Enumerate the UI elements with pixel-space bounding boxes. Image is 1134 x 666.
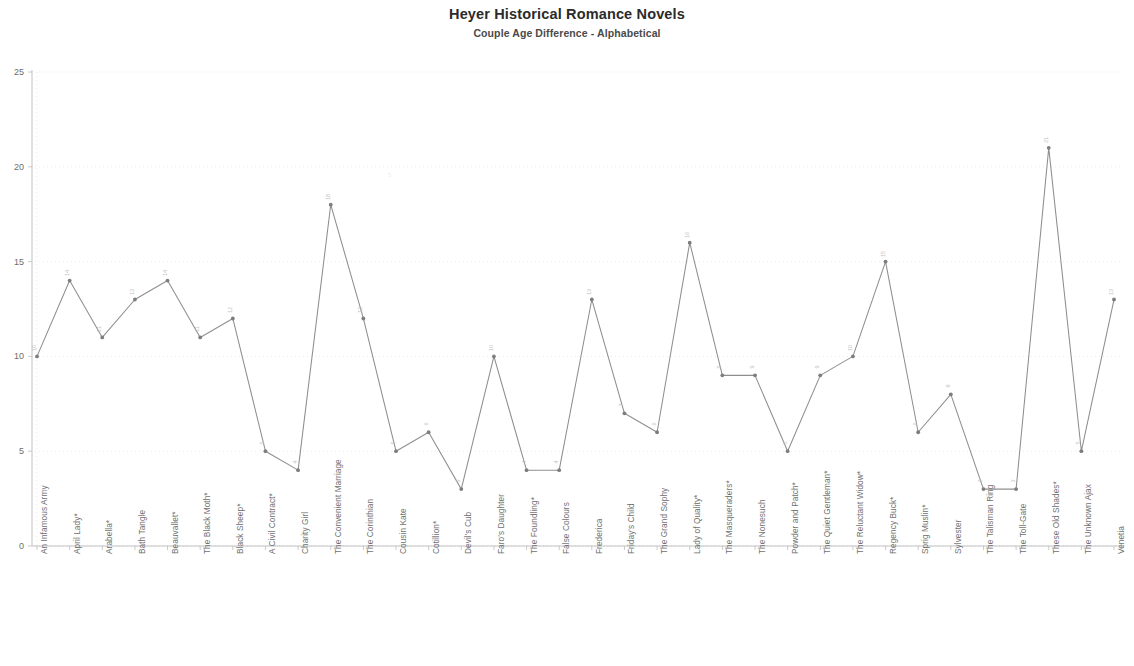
x-tick-label: The Foundling* — [530, 497, 539, 554]
x-tick-label: Arabella* — [105, 520, 114, 554]
data-point — [133, 298, 137, 302]
data-point — [329, 203, 333, 207]
x-tick-label: Powder and Patch* — [791, 482, 800, 554]
y-tick-label: 20 — [2, 162, 24, 172]
data-point — [1112, 298, 1116, 302]
data-point-label: 3 — [1010, 480, 1016, 483]
x-tick-label: Lady of Quality* — [693, 495, 702, 554]
x-tick-label: Faro's Daughter — [497, 494, 506, 554]
chart-root: Heyer Historical Romance Novels Couple A… — [0, 0, 1134, 666]
data-point-label: 9 — [814, 366, 820, 369]
x-tick-label: Black Sheep* — [236, 504, 245, 554]
series-markers — [35, 146, 1116, 491]
data-point — [1047, 146, 1051, 150]
data-point-label: 5 — [390, 442, 396, 445]
data-point — [427, 430, 431, 434]
x-tick-label: Charity Girl — [301, 512, 310, 554]
line-chart-svg — [0, 0, 1134, 666]
data-point-label: 10 — [488, 345, 494, 351]
y-tick-label: 5 — [2, 446, 24, 456]
x-tick-label: These Old Shades* — [1052, 481, 1061, 554]
data-point-label: 21 — [1043, 137, 1049, 143]
data-point-label: 8 — [945, 385, 951, 388]
data-point-label: 5 — [1075, 442, 1081, 445]
data-point-label: 16 — [684, 232, 690, 238]
data-point — [753, 373, 757, 377]
x-tick-label: Sylvester — [954, 519, 963, 554]
axis-lines — [28, 70, 1124, 546]
data-point-label: 3 — [977, 480, 983, 483]
x-tick-label: Cotillion* — [432, 521, 441, 554]
x-tick-label: The Reluctant Widow* — [856, 471, 865, 554]
data-point — [394, 449, 398, 453]
x-tick-label: The Quiet Gentleman* — [823, 470, 832, 554]
data-point-label: 13 — [586, 288, 592, 294]
data-point-label: 11 — [96, 327, 102, 333]
data-point — [720, 373, 724, 377]
x-tick-label: Sprig Muslin* — [921, 504, 930, 554]
data-point-label: 5 — [259, 442, 265, 445]
data-point-label: 4 — [521, 461, 527, 464]
x-tick-label: The Nonesuch — [758, 499, 767, 554]
data-point — [166, 279, 170, 283]
x-tick-label: The Toll-Gate — [1019, 504, 1028, 554]
data-point — [557, 468, 561, 472]
data-point — [818, 373, 822, 377]
data-point-label: 6 — [423, 423, 429, 426]
data-point — [296, 468, 300, 472]
data-point — [459, 487, 463, 491]
data-point — [688, 241, 692, 245]
data-point — [361, 317, 365, 321]
x-tick-label: Frederica — [595, 519, 604, 555]
data-point — [916, 430, 920, 434]
data-point-label: 10 — [31, 345, 37, 351]
data-point-label: 6 — [912, 423, 918, 426]
x-tick-label: Venetia — [1117, 526, 1126, 554]
x-tick-label: Cousin Kate — [399, 508, 408, 554]
x-tick-label: The Convenient Marriage — [334, 459, 343, 554]
y-tick-label: 15 — [2, 257, 24, 267]
data-point — [264, 449, 268, 453]
data-point-label: 7 — [618, 404, 624, 407]
data-point-label: 9 — [749, 366, 755, 369]
x-tick-label: Regency Buck* — [889, 497, 898, 554]
data-point-label: 15 — [880, 250, 886, 256]
data-point-label: 9 — [716, 366, 722, 369]
data-point-label: 4 — [553, 461, 559, 464]
data-point — [68, 279, 72, 283]
data-point-label: 14 — [162, 269, 168, 275]
data-point — [35, 355, 39, 359]
data-point — [949, 392, 953, 396]
data-point — [655, 430, 659, 434]
data-point-label: 10 — [847, 345, 853, 351]
data-point — [851, 355, 855, 359]
data-point-label: 18 — [325, 194, 331, 200]
data-point — [590, 298, 594, 302]
x-tick-label: False Colours — [562, 502, 571, 554]
data-point-label: 5 — [782, 442, 788, 445]
data-point-label: 13 — [129, 288, 135, 294]
data-point-label: 4 — [292, 461, 298, 464]
x-tick-label: An Infamous Army — [40, 485, 49, 554]
x-tick-label: The Masqueraders* — [725, 480, 734, 554]
y-tick-label: 10 — [2, 351, 24, 361]
y-tick-label: 25 — [2, 67, 24, 77]
data-point — [198, 336, 202, 340]
plot-area: 0510152025 An Infamous ArmyApril Lady*Ar… — [0, 0, 1134, 666]
series-line — [37, 148, 1114, 489]
y-tick-label: 0 — [2, 541, 24, 551]
data-point — [231, 317, 235, 321]
data-point-label: 14 — [64, 269, 70, 275]
x-tick-label: Bath Tangle — [138, 510, 147, 554]
x-tick-label: A Civil Contract* — [268, 493, 277, 554]
x-tick-label: The Unknown Ajax — [1084, 484, 1093, 554]
x-tick-label: The Grand Sophy — [660, 488, 669, 554]
x-tick-label: April Lady* — [73, 513, 82, 554]
scan-artifact: 5 — [388, 172, 391, 178]
x-tick-label: The Corinthian — [366, 499, 375, 554]
data-point-label: 3 — [455, 480, 461, 483]
data-point-label: 11 — [194, 327, 200, 333]
data-point — [786, 449, 790, 453]
gridlines — [35, 72, 1122, 546]
x-tick-label: Beauvallet* — [171, 511, 180, 554]
